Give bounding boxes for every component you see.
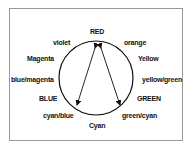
label-yellow: Yellow	[138, 55, 159, 63]
arrow-red-cyan-blue	[77, 48, 95, 105]
label-green-cyan: green/cyan	[122, 112, 157, 120]
label-green: GREEN	[137, 95, 161, 103]
color-wheel-circle	[59, 41, 133, 115]
label-cyan: Cyan	[89, 122, 105, 130]
label-blue-magenta: blue/magenta	[11, 76, 54, 84]
label-blue: BLUE	[39, 95, 57, 103]
label-yellow-green: yellow/green	[142, 76, 182, 84]
label-orange: orange	[124, 39, 146, 47]
label-red: RED	[90, 28, 104, 36]
label-cyan-blue: cyan/blue	[43, 112, 74, 120]
arrow-red-green-cyan	[101, 48, 120, 105]
label-magenta: Magenta	[27, 55, 54, 63]
label-violet: violet	[53, 39, 70, 47]
